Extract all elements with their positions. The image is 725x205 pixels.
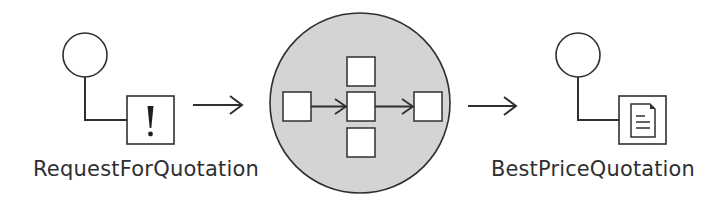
process-node [270, 13, 450, 193]
step-box-bottom [347, 128, 375, 157]
document-icon [631, 104, 655, 137]
output-endpoint-circle [556, 33, 600, 77]
input-connector-line [85, 77, 127, 120]
arrow-process-to-output [468, 97, 516, 115]
input-message-label: RequestForQuotation [33, 156, 259, 181]
step-box-left [283, 92, 311, 121]
step-box-center [347, 92, 375, 121]
step-box-top [347, 57, 375, 86]
process-diagram: RequestForQuotation [0, 0, 725, 205]
step-box-right [414, 92, 442, 121]
input-endpoint-circle [63, 33, 107, 77]
input-message-node: RequestForQuotation [33, 33, 259, 181]
output-message-node: BestPriceQuotation [491, 33, 695, 181]
output-connector-line [578, 77, 619, 120]
output-message-label: BestPriceQuotation [491, 156, 695, 181]
arrow-input-to-process [193, 96, 242, 114]
